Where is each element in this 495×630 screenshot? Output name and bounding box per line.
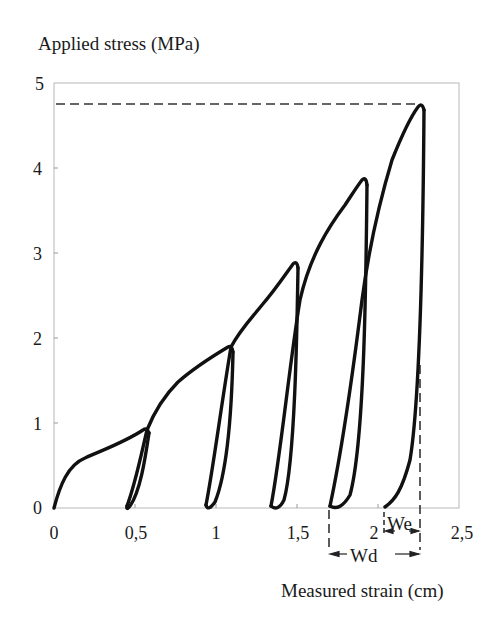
- wd-arrowhead-left: [330, 552, 339, 557]
- x-tick-label: 0: [50, 523, 59, 543]
- x-tick-label: 1: [212, 523, 221, 543]
- unload-curve-4: [330, 185, 367, 508]
- x-tick-label: 0,5: [125, 523, 148, 543]
- x-tick-label: 1,5: [287, 523, 310, 543]
- we-label: We: [387, 513, 412, 534]
- loading-curve-4: [271, 179, 367, 506]
- loading-curve-3: [206, 263, 298, 505]
- y-tick-label: 2: [33, 329, 42, 349]
- x-tick-label: 2: [370, 523, 379, 543]
- x-axis-title: Measured strain (cm): [281, 580, 444, 602]
- stress-strain-chart: Applied stress (MPa) 0 1 2 3 4 5 0 0,5 1…: [0, 0, 495, 630]
- y-tick-label: 0: [33, 498, 42, 518]
- y-axis-title: Applied stress (MPa): [38, 33, 199, 55]
- loading-curve-5: [330, 105, 424, 506]
- y-tick-label: 1: [33, 414, 42, 434]
- y-tick-label: 4: [33, 159, 42, 179]
- wd-arrowhead-right: [410, 552, 419, 557]
- we-arrowhead-right: [411, 529, 419, 534]
- y-tick-label: 3: [33, 244, 42, 264]
- x-tick-label: 2,5: [451, 523, 474, 543]
- y-tick-label: 5: [35, 74, 44, 94]
- stress-strain-curves: [54, 105, 424, 508]
- wd-label: Wd: [350, 545, 378, 566]
